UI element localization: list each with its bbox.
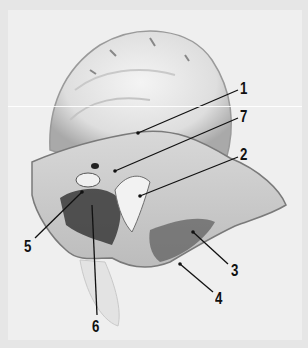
- label-5: 5: [24, 238, 31, 255]
- label-7: 7: [240, 108, 247, 125]
- label-2: 2: [240, 146, 247, 163]
- label-3: 3: [231, 262, 238, 279]
- label-6: 6: [92, 318, 99, 335]
- bone-specimen-illustration: [0, 0, 308, 348]
- label-1: 1: [240, 80, 247, 97]
- label-4: 4: [215, 290, 222, 307]
- scan-artifact-line: [8, 106, 302, 107]
